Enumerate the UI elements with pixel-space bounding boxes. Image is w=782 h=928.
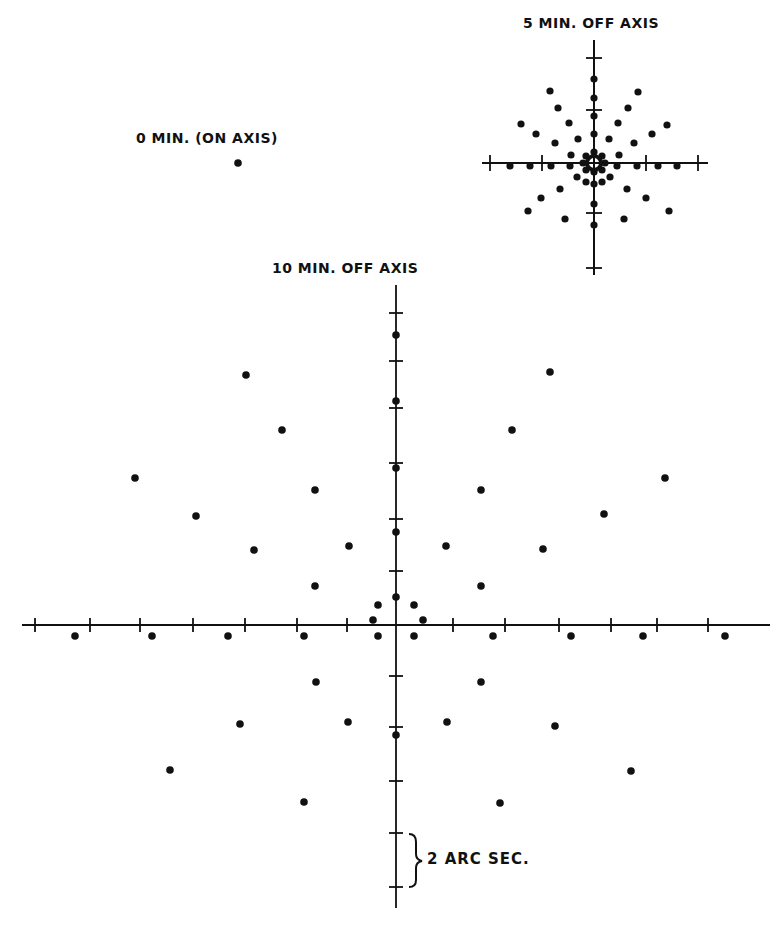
spot-point <box>374 601 382 609</box>
spot-point <box>661 474 669 482</box>
five-min-label: 5 MIN. OFF AXIS <box>523 15 659 31</box>
spot-point <box>443 718 451 726</box>
spot-point <box>633 162 640 169</box>
spot-point <box>442 542 450 550</box>
spot-point <box>648 130 655 137</box>
spot-point <box>573 173 580 180</box>
spot-point <box>300 632 308 640</box>
spot-point <box>419 616 427 624</box>
spot-point <box>242 371 250 379</box>
spot-point <box>556 185 563 192</box>
spot-point <box>614 119 621 126</box>
spot-point <box>590 200 597 207</box>
spot-point <box>345 542 353 550</box>
spot-point <box>665 207 672 214</box>
spot-point <box>374 632 382 640</box>
spot-point <box>392 593 400 601</box>
spot-point <box>582 178 589 185</box>
spot-point <box>477 486 485 494</box>
spot-point <box>546 87 553 94</box>
spot-diagram-figure <box>0 0 782 928</box>
spot-point <box>131 474 139 482</box>
spot-point <box>654 162 661 169</box>
spot-point <box>565 119 572 126</box>
on-axis-spot-diagram <box>234 159 242 167</box>
spot-point <box>590 130 597 137</box>
spot-point <box>312 678 320 686</box>
spot-point <box>605 135 612 142</box>
spot-point <box>517 120 524 127</box>
spot-point <box>590 180 597 187</box>
spot-point <box>551 139 558 146</box>
five-min-spot-diagram <box>482 40 708 275</box>
spot-point <box>506 162 513 169</box>
spot-point <box>663 121 670 128</box>
scale-bracket <box>409 834 422 887</box>
spot-point <box>673 162 680 169</box>
spot-point <box>489 632 497 640</box>
spot-point <box>551 722 559 730</box>
spot-point <box>598 178 605 185</box>
spot-point <box>250 546 258 554</box>
spot-point <box>606 173 613 180</box>
spot-point <box>613 162 620 169</box>
spot-point <box>567 632 575 640</box>
spot-point <box>71 632 79 640</box>
spot-point <box>410 601 418 609</box>
spot-point <box>574 135 581 142</box>
spot-point <box>192 512 200 520</box>
spot-point <box>627 767 635 775</box>
spot-point <box>477 582 485 590</box>
spot-point <box>524 207 531 214</box>
spot-point <box>508 426 516 434</box>
spot-point <box>311 486 319 494</box>
spot-point <box>344 718 352 726</box>
spot-point <box>369 616 377 624</box>
on-axis-label: 0 MIN. (ON AXIS) <box>136 130 278 146</box>
spot-point <box>721 632 729 640</box>
spot-point <box>392 331 400 339</box>
spot-point <box>630 139 637 146</box>
spot-point <box>590 221 597 228</box>
spot-point <box>590 75 597 82</box>
spot-point <box>590 112 597 119</box>
spot-point <box>477 678 485 686</box>
spot-point <box>410 632 418 640</box>
spot-point <box>148 632 156 640</box>
spot-point <box>496 799 504 807</box>
spot-point <box>537 194 544 201</box>
scale-label: 2 ARC SEC. <box>427 850 530 868</box>
spot-point <box>620 215 627 222</box>
spot-point <box>639 632 647 640</box>
spot-point <box>526 162 533 169</box>
spot-point <box>224 632 232 640</box>
spot-point <box>532 130 539 137</box>
spot-point <box>634 88 641 95</box>
spot-point <box>567 151 574 158</box>
spot-point <box>392 397 400 405</box>
spot-point <box>278 426 286 434</box>
spot-point <box>566 162 573 169</box>
spot-point <box>547 162 554 169</box>
spot-point <box>300 798 308 806</box>
spot-point <box>234 159 242 167</box>
spot-point <box>623 185 630 192</box>
spot-point <box>642 194 649 201</box>
spot-point <box>590 94 597 101</box>
spot-point <box>392 731 400 739</box>
spot-point <box>311 582 319 590</box>
spot-point <box>615 151 622 158</box>
spot-point <box>392 528 400 536</box>
spot-point <box>561 215 568 222</box>
spot-point <box>392 464 400 472</box>
spot-point <box>546 368 554 376</box>
ten-min-label: 10 MIN. OFF AXIS <box>272 260 418 276</box>
spot-point <box>554 104 561 111</box>
spot-point <box>166 766 174 774</box>
spot-point <box>600 510 608 518</box>
ten-min-spot-diagram <box>22 285 770 908</box>
spot-point <box>236 720 244 728</box>
spot-point <box>624 104 631 111</box>
spot-point <box>539 545 547 553</box>
